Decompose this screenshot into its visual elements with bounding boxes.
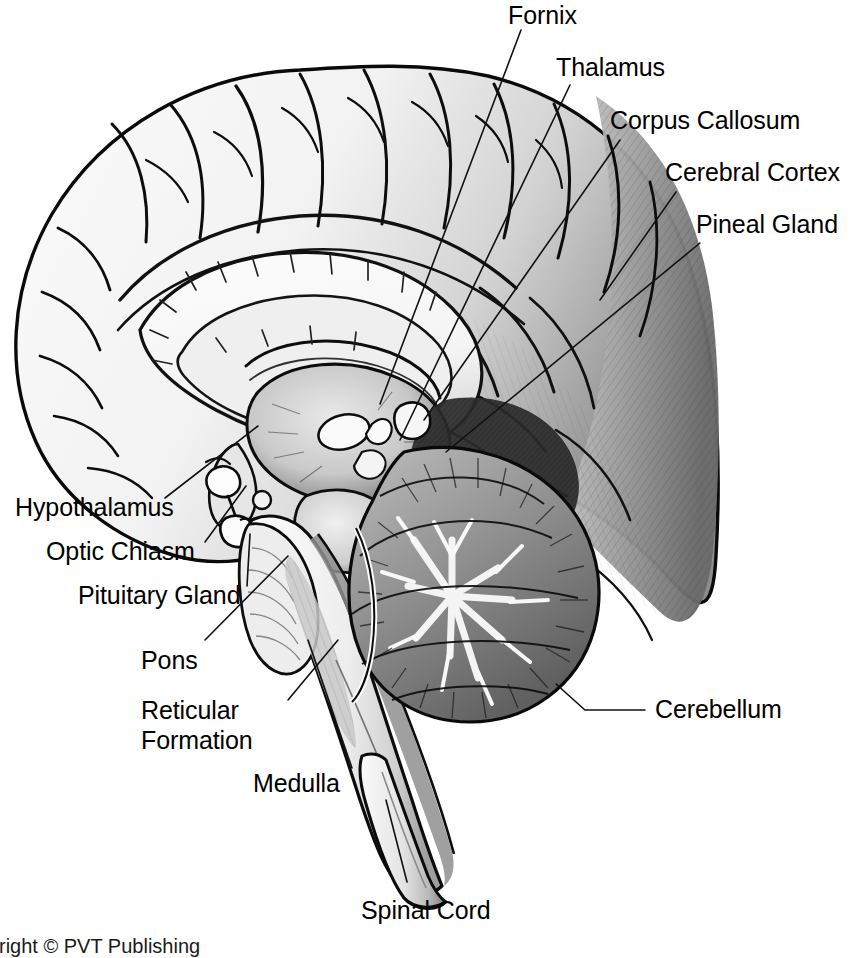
brain-diagram-page: Fornix Thalamus Corpus Callosum Cerebral… (0, 0, 853, 958)
label-cerebellum: Cerebellum (655, 694, 782, 724)
label-fornix: Fornix (508, 0, 577, 30)
label-spinal-cord: Spinal Cord (361, 895, 491, 925)
label-pituitary-gland: Pituitary Gland (78, 580, 240, 610)
label-cerebral-cortex: Cerebral Cortex (665, 157, 840, 187)
leader-cerebellum (556, 684, 645, 710)
label-pineal-gland: Pineal Gland (696, 209, 838, 239)
label-reticular-formation-line1: Reticular (141, 696, 239, 724)
label-reticular-formation: Reticular Formation (141, 695, 321, 755)
label-hypothalamus: Hypothalamus (15, 492, 174, 522)
label-reticular-formation-line2: Formation (141, 726, 253, 754)
label-pons: Pons (141, 645, 198, 675)
copyright-notice: yright © PVT Publishing (0, 935, 200, 958)
label-corpus-callosum: Corpus Callosum (610, 105, 800, 135)
label-optic-chiasm: Optic Chiasm (46, 536, 195, 566)
brain-illustration (0, 0, 853, 958)
label-thalamus: Thalamus (556, 52, 665, 82)
label-medulla: Medulla (253, 768, 340, 798)
